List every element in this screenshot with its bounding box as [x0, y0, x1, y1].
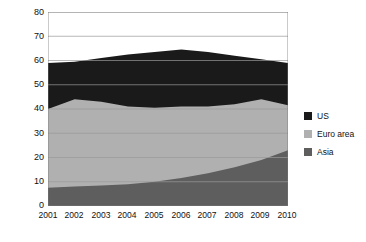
x-tick-2009: 2009 [245, 210, 275, 221]
y-tick-50: 50 [18, 79, 44, 89]
x-tick-2010: 2010 [272, 210, 302, 221]
legend-item-us: US [304, 108, 364, 124]
y-tick-10: 10 [18, 176, 44, 186]
legend-label-euro-area: Euro area [317, 129, 354, 139]
x-tick-2005: 2005 [139, 210, 169, 221]
y-tick-0: 0 [18, 200, 44, 210]
legend-item-asia: Asia [304, 144, 364, 160]
legend-swatch-icon-euro-area [304, 130, 312, 138]
plot-area [48, 12, 288, 206]
stacked-area-chart: % Africa Exports 80 70 60 50 40 30 20 10… [0, 0, 366, 242]
y-tick-40: 40 [18, 103, 44, 113]
y-tick-30: 30 [18, 128, 44, 138]
y-tick-80: 80 [18, 7, 44, 17]
x-tick-2004: 2004 [112, 210, 142, 221]
y-tick-20: 20 [18, 152, 44, 162]
x-tick-2002: 2002 [59, 210, 89, 221]
legend-item-euro-area: Euro area [304, 126, 364, 142]
legend-swatch-icon-us [304, 112, 312, 120]
x-tick-2007: 2007 [192, 210, 222, 221]
area-series-group [48, 50, 288, 206]
y-tick-60: 60 [18, 55, 44, 65]
y-axis-tick-labels: 80 70 60 50 40 30 20 10 0 [14, 0, 44, 242]
chart-legend: US Euro area Asia [304, 108, 364, 162]
legend-label-us: US [317, 111, 329, 121]
legend-label-asia: Asia [317, 147, 334, 157]
legend-swatch-icon-asia [304, 148, 312, 156]
y-tick-70: 70 [18, 31, 44, 41]
